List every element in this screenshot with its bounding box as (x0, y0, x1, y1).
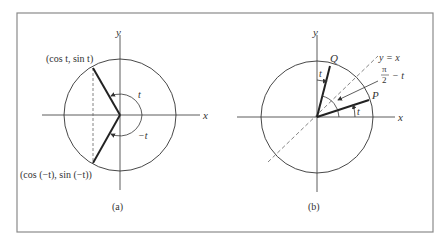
arc-t-p (353, 105, 355, 117)
figure-canvas: y x (cos t, sin t) (cos (−t), sin (−t)) … (0, 0, 445, 246)
ray-t (93, 68, 120, 115)
line-label: y = x (378, 52, 400, 63)
angle-t-q-label: t (319, 68, 322, 79)
x-axis-label: x (202, 109, 208, 121)
complement-rest: − t (392, 70, 404, 81)
ray-neg-t (93, 115, 120, 163)
complement-denominator: 2 (382, 75, 387, 85)
figure-border (17, 13, 433, 232)
panel-a: y x (cos t, sin t) (cos (−t), sin (−t)) … (20, 26, 208, 213)
point-p-label: P (371, 89, 379, 101)
panel-b: y x Q P y = x t t π 2 − t (b) (237, 26, 404, 213)
y-axis-label: y (312, 26, 318, 38)
point-q-label: Q (330, 52, 338, 64)
angle-neg-t-label: −t (138, 130, 148, 141)
angle-t-label: t (138, 89, 141, 100)
lower-point-label: (cos (−t), sin (−t)) (20, 169, 92, 181)
caption-a: (a) (112, 201, 123, 213)
ray-p (317, 100, 369, 117)
y-axis-label: y (115, 26, 121, 38)
complement-numerator: π (382, 64, 387, 74)
caption-b: (b) (308, 201, 320, 213)
x-axis-label: x (397, 111, 403, 123)
angle-t-p-label: t (357, 106, 360, 117)
upper-point-label: (cos t, sin t) (46, 53, 93, 65)
